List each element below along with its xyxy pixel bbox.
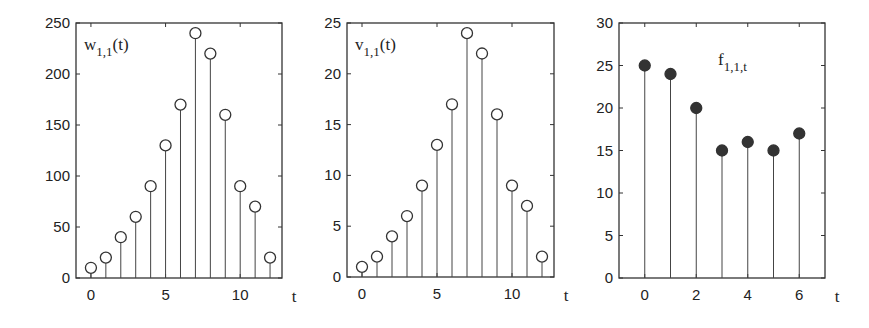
x-axis-label: t [292,287,297,306]
data-point-marker [665,69,676,80]
data-point-marker [115,232,126,243]
x-tick-label: 0 [87,286,95,303]
y-tick-label: 200 [45,65,70,82]
stem-plot-3: 0510152025300246tf1,1,t [596,14,839,306]
y-tick-label: 20 [324,65,341,82]
y-tick-label: 5 [605,227,613,244]
data-point-marker [357,261,368,272]
x-tick-label: 6 [795,286,803,303]
data-point-marker [522,200,533,211]
data-point-marker [372,251,383,262]
data-point-marker [447,99,458,110]
data-point-marker [507,180,518,191]
data-point-marker [717,145,728,156]
data-point-marker [691,103,702,114]
y-tick-label: 10 [324,166,341,183]
y-tick-label: 10 [596,184,613,201]
x-tick-label: 5 [161,286,169,303]
y-tick-label: 20 [596,99,613,116]
x-tick-label: 2 [692,286,700,303]
x-tick-label: 10 [232,286,249,303]
x-tick-label: 5 [433,285,441,302]
data-point-marker [250,201,261,212]
data-point-marker [477,48,488,59]
data-point-marker [145,181,156,192]
series-label: v1,1(t) [355,35,396,59]
series-label: f1,1,t [718,50,747,74]
data-point-marker [639,60,650,71]
y-tick-label: 15 [324,116,341,133]
data-point-marker [432,139,443,150]
x-tick-label: 0 [641,286,649,303]
x-tick-label: 10 [504,285,521,302]
y-tick-label: 250 [45,14,70,31]
data-point-marker [742,137,753,148]
data-point-marker [492,109,503,120]
y-tick-label: 30 [596,14,613,31]
y-tick-label: 0 [605,269,613,286]
data-point-marker [85,262,96,273]
data-point-marker [205,48,216,59]
data-point-marker [235,181,246,192]
data-point-marker [130,211,141,222]
data-point-marker [100,252,111,263]
data-point-marker [794,128,805,139]
data-point-marker [387,231,398,242]
x-axis-label: t [835,287,840,306]
data-point-marker [175,99,186,110]
data-point-marker [537,251,548,262]
data-point-marker [462,28,473,39]
y-tick-label: 100 [45,167,70,184]
y-tick-label: 25 [324,14,341,31]
y-tick-label: 0 [333,268,341,285]
axes-frame [76,23,282,278]
data-point-marker [417,180,428,191]
y-tick-label: 150 [45,116,70,133]
y-tick-label: 50 [53,218,70,235]
stem-plot-1: 0501001502002500510tw1,1(t) [45,14,297,306]
data-point-marker [220,109,231,120]
stem-plot-2: 05101520250510tv1,1(t) [324,14,568,305]
figure: 0501001502002500510tw1,1(t)0510152025051… [0,0,869,328]
axes-frame [347,23,554,277]
x-axis-label: t [564,286,569,305]
data-point-marker [190,28,201,39]
series-label: w1,1(t) [84,35,129,59]
y-tick-label: 5 [333,217,341,234]
data-point-marker [768,145,779,156]
x-tick-label: 4 [744,286,752,303]
y-tick-label: 15 [596,142,613,159]
y-tick-label: 0 [62,269,70,286]
x-tick-label: 0 [358,285,366,302]
data-point-marker [160,140,171,151]
data-point-marker [402,211,413,222]
y-tick-label: 25 [596,57,613,74]
data-point-marker [265,252,276,263]
